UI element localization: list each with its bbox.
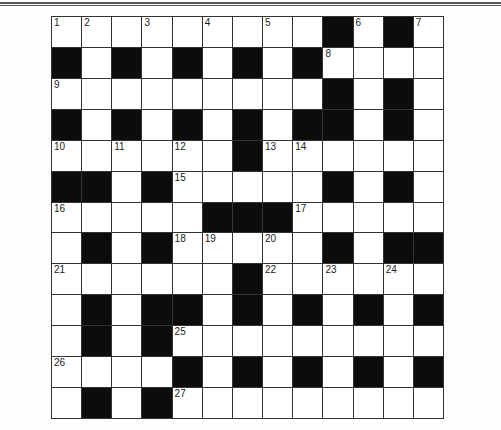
answer-cell[interactable]: 16: [51, 202, 81, 233]
answer-cell[interactable]: 21: [51, 263, 81, 294]
answer-cell[interactable]: [202, 47, 232, 78]
answer-cell[interactable]: [111, 202, 141, 233]
answer-cell[interactable]: [383, 356, 413, 387]
answer-cell[interactable]: [383, 202, 413, 233]
answer-cell[interactable]: [353, 78, 383, 109]
answer-cell[interactable]: [413, 263, 443, 294]
answer-cell[interactable]: [322, 202, 352, 233]
answer-cell[interactable]: [111, 78, 141, 109]
answer-cell[interactable]: [413, 78, 443, 109]
answer-cell[interactable]: [51, 325, 81, 356]
answer-cell[interactable]: [232, 232, 262, 263]
answer-cell[interactable]: [141, 47, 171, 78]
answer-cell[interactable]: [413, 202, 443, 233]
answer-cell[interactable]: 12: [172, 140, 202, 171]
answer-cell[interactable]: [202, 263, 232, 294]
answer-cell[interactable]: [51, 294, 81, 325]
answer-cell[interactable]: [353, 171, 383, 202]
answer-cell[interactable]: [413, 387, 443, 418]
answer-cell[interactable]: [413, 109, 443, 140]
answer-cell[interactable]: [262, 171, 292, 202]
answer-cell[interactable]: [202, 140, 232, 171]
answer-cell[interactable]: [353, 232, 383, 263]
answer-cell[interactable]: 25: [172, 325, 202, 356]
answer-cell[interactable]: [262, 325, 292, 356]
answer-cell[interactable]: 22: [262, 263, 292, 294]
answer-cell[interactable]: [202, 109, 232, 140]
answer-cell[interactable]: [111, 263, 141, 294]
answer-cell[interactable]: 24: [383, 263, 413, 294]
answer-cell[interactable]: [322, 294, 352, 325]
answer-cell[interactable]: 18: [172, 232, 202, 263]
answer-cell[interactable]: [141, 356, 171, 387]
answer-cell[interactable]: 15: [172, 171, 202, 202]
answer-cell[interactable]: 26: [51, 356, 81, 387]
answer-cell[interactable]: [292, 263, 322, 294]
answer-cell[interactable]: [111, 171, 141, 202]
answer-cell[interactable]: [81, 109, 111, 140]
answer-cell[interactable]: 11: [111, 140, 141, 171]
answer-cell[interactable]: [353, 325, 383, 356]
answer-cell[interactable]: 17: [292, 202, 322, 233]
answer-cell[interactable]: [322, 387, 352, 418]
answer-cell[interactable]: [353, 387, 383, 418]
answer-cell[interactable]: 2: [81, 16, 111, 47]
answer-cell[interactable]: [262, 356, 292, 387]
answer-cell[interactable]: [292, 325, 322, 356]
answer-cell[interactable]: [81, 263, 111, 294]
answer-cell[interactable]: [292, 232, 322, 263]
answer-cell[interactable]: [353, 47, 383, 78]
answer-cell[interactable]: [322, 140, 352, 171]
answer-cell[interactable]: [383, 325, 413, 356]
answer-cell[interactable]: 9: [51, 78, 81, 109]
answer-cell[interactable]: [111, 294, 141, 325]
answer-cell[interactable]: [413, 140, 443, 171]
answer-cell[interactable]: [111, 325, 141, 356]
answer-cell[interactable]: 19: [202, 232, 232, 263]
answer-cell[interactable]: [353, 202, 383, 233]
answer-cell[interactable]: [262, 294, 292, 325]
answer-cell[interactable]: [81, 202, 111, 233]
answer-cell[interactable]: 3: [141, 16, 171, 47]
answer-cell[interactable]: [202, 356, 232, 387]
answer-cell[interactable]: [81, 47, 111, 78]
answer-cell[interactable]: [51, 232, 81, 263]
answer-cell[interactable]: [202, 171, 232, 202]
answer-cell[interactable]: [262, 109, 292, 140]
answer-cell[interactable]: [81, 78, 111, 109]
answer-cell[interactable]: 8: [322, 47, 352, 78]
answer-cell[interactable]: [262, 387, 292, 418]
answer-cell[interactable]: 6: [353, 16, 383, 47]
answer-cell[interactable]: [383, 47, 413, 78]
answer-cell[interactable]: 14: [292, 140, 322, 171]
answer-cell[interactable]: 27: [172, 387, 202, 418]
answer-cell[interactable]: [81, 140, 111, 171]
answer-cell[interactable]: [141, 202, 171, 233]
answer-cell[interactable]: [111, 16, 141, 47]
answer-cell[interactable]: [232, 16, 262, 47]
answer-cell[interactable]: [81, 356, 111, 387]
answer-cell[interactable]: [232, 325, 262, 356]
answer-cell[interactable]: [413, 325, 443, 356]
answer-cell[interactable]: [172, 263, 202, 294]
answer-cell[interactable]: [172, 78, 202, 109]
answer-cell[interactable]: [383, 387, 413, 418]
answer-cell[interactable]: [141, 140, 171, 171]
answer-cell[interactable]: [141, 263, 171, 294]
answer-cell[interactable]: 7: [413, 16, 443, 47]
answer-cell[interactable]: [111, 232, 141, 263]
answer-cell[interactable]: 5: [262, 16, 292, 47]
answer-cell[interactable]: [262, 47, 292, 78]
answer-cell[interactable]: [353, 263, 383, 294]
answer-cell[interactable]: [383, 140, 413, 171]
answer-cell[interactable]: [202, 294, 232, 325]
answer-cell[interactable]: [202, 387, 232, 418]
answer-cell[interactable]: [111, 387, 141, 418]
answer-cell[interactable]: [353, 140, 383, 171]
answer-cell[interactable]: 23: [322, 263, 352, 294]
answer-cell[interactable]: [413, 171, 443, 202]
answer-cell[interactable]: [141, 78, 171, 109]
answer-cell[interactable]: 20: [262, 232, 292, 263]
answer-cell[interactable]: [292, 387, 322, 418]
answer-cell[interactable]: [292, 171, 322, 202]
